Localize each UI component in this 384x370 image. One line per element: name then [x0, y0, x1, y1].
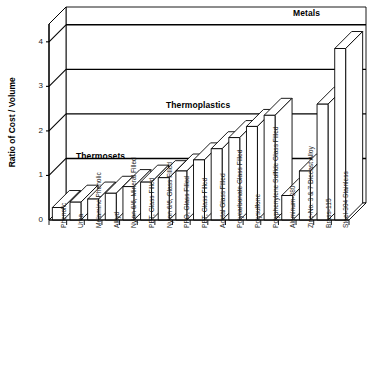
x-tick-label-4: Nylon 6/6, Mineral Filled	[131, 157, 138, 228]
chart-plot-area	[0, 0, 384, 370]
x-tick-label-12: Polyphenylene Sulfide Glass Filled	[273, 126, 280, 228]
y-axis-title: Ratio of Cost / Volume	[8, 57, 17, 187]
x-tick-label-3: Alkyd	[114, 212, 121, 228]
group-label-thermosets: Thermosets	[76, 152, 125, 161]
x-tick-label-2: Melamine Phenolic	[96, 172, 103, 228]
x-axis-ticks	[49, 220, 349, 225]
x-tick-label-16: Steel-304 Stainless	[343, 171, 350, 228]
group-label-metals: Metals	[293, 9, 320, 18]
x-tick-label-0: Phenolic	[61, 203, 68, 228]
x-tick-label-7: PPO, Glass Filled	[184, 176, 191, 228]
y-tick-label-0: 0	[29, 216, 43, 224]
x-tick-label-6: Nylon 6/6, Glass Filled	[167, 162, 174, 228]
y-tick-label-2: 2	[29, 127, 43, 135]
x-tick-label-11: Polysulfone	[255, 194, 262, 228]
x-tick-label-14: Zinc-No. 3 & 7 Diecast Alloy	[308, 146, 315, 228]
x-tick-label-9: Acetal Glass Filled	[220, 173, 227, 228]
y-tick-label-4: 4	[29, 38, 43, 46]
y-tick-label-1: 1	[29, 171, 43, 179]
x-tick-label-8: PBT, Glass Filled	[202, 178, 209, 228]
x-tick-label-10: Polycarbonate Glass Filled	[237, 150, 244, 228]
x-tick-label-1: Urea	[78, 214, 85, 228]
group-label-thermoplastics: Thermoplastics	[166, 101, 230, 110]
x-tick-label-5: PET, Glass Filled	[149, 178, 156, 228]
y-tick-label-3: 3	[29, 82, 43, 90]
x-tick-label-13: Aluminum-380	[290, 185, 297, 228]
cost-volume-bar-chart: Metals Thermoplastics Thermosets Ratio o…	[0, 0, 384, 370]
x-tick-label-15: Brass-115	[326, 198, 333, 228]
